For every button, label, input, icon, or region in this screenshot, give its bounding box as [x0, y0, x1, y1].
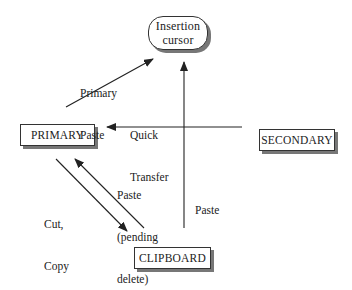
paste-pending-delete-line2: (pending [117, 230, 158, 244]
paste-pending-delete-label: Paste (pending delete) [117, 160, 158, 290]
insertion-cursor-node: Insertion cursor [148, 16, 208, 50]
secondary-label: SECONDARY [261, 134, 332, 146]
secondary-node: SECONDARY [259, 129, 335, 151]
paste-line: Paste [195, 203, 219, 217]
insertion-cursor-line2: cursor [149, 33, 207, 47]
primary-paste-line1: Primary [80, 86, 117, 100]
insertion-cursor-line1: Insertion [149, 19, 207, 33]
primary-label: PRIMARY [31, 129, 84, 141]
paste-pending-delete-line3: delete) [117, 272, 158, 286]
cut-copy-line1: Cut, [44, 217, 69, 231]
primary-paste-label: Primary Paste [80, 58, 117, 156]
paste-pending-delete-line1: Paste [117, 188, 158, 202]
cut-copy-label: Cut, Copy [44, 189, 69, 287]
quick-transfer-line1: Quick [130, 128, 169, 142]
primary-paste-line2: Paste [80, 128, 117, 142]
paste-label: Paste [195, 175, 219, 231]
cut-copy-line2: Copy [44, 259, 69, 273]
